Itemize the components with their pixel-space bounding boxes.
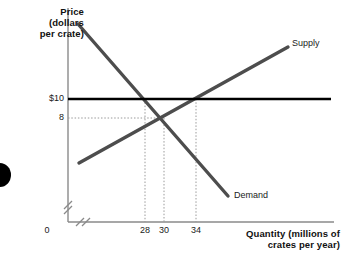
y-axis-title: Price (dollars per crate) (18, 6, 84, 40)
x-tick-label-30: 30 (153, 225, 175, 236)
demand-curve-label: Demand (234, 190, 268, 201)
origin-label: 0 (38, 225, 56, 236)
x-axis-title: Quantity (millions of crates per year) (222, 228, 340, 250)
demand-curve (78, 24, 228, 196)
supply-demand-figure: Price (dollars per crate) Quantity (mill… (0, 0, 346, 261)
y-tick-label-equilibrium-price: 8 (22, 112, 64, 122)
x-tick-label-34: 34 (185, 225, 207, 236)
supply-curve-label: Supply (292, 38, 320, 49)
y-tick-label-price-floor: $10 (22, 93, 64, 103)
